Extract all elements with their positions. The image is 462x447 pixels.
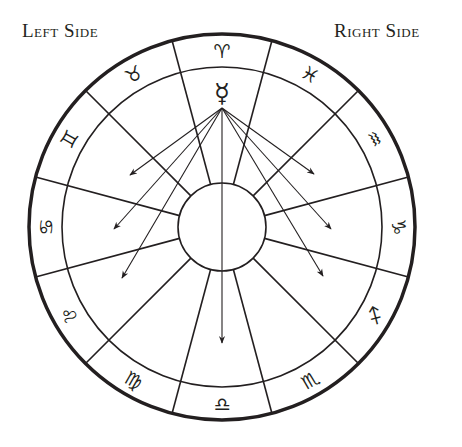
capricorn-icon: ♑ [388, 218, 410, 235]
house-cusp-line [265, 238, 409, 277]
house-cusp-line [86, 258, 191, 363]
house-cusp-line [253, 91, 358, 196]
house-cusp-line [253, 258, 358, 363]
house-cusp-line [172, 270, 211, 414]
aspect-arrows [114, 108, 331, 343]
zodiac-wheel: ♈♓♒♑♐♏♎♍♌♋♊♉ ☿ [0, 0, 462, 447]
aries-icon: ♈ [213, 40, 230, 62]
cancer-icon: ♋ [35, 218, 57, 235]
libra-icon: ♎ [213, 393, 230, 415]
house-cusp-line [36, 177, 180, 216]
scorpio-icon: ♏ [297, 366, 323, 394]
taurus-icon: ♉ [121, 60, 147, 88]
house-cusp-line [86, 91, 191, 196]
house-cusp-line [36, 238, 180, 277]
mercury-icon: ☿ [214, 78, 230, 108]
leo-icon: ♌ [55, 302, 83, 328]
house-cusp-line [233, 41, 272, 185]
aspect-arrow [222, 108, 314, 174]
virgo-icon: ♍ [121, 366, 147, 394]
gemini-icon: ♊ [55, 126, 83, 152]
house-cusp-line [172, 41, 211, 185]
house-cusp-line [233, 270, 272, 414]
house-cusp-line [265, 177, 409, 216]
aspect-arrow [130, 108, 222, 175]
sagittarius-icon: ♐ [361, 302, 389, 328]
pisces-icon: ♓ [297, 60, 323, 88]
aquarius-icon: ♒ [361, 126, 389, 152]
